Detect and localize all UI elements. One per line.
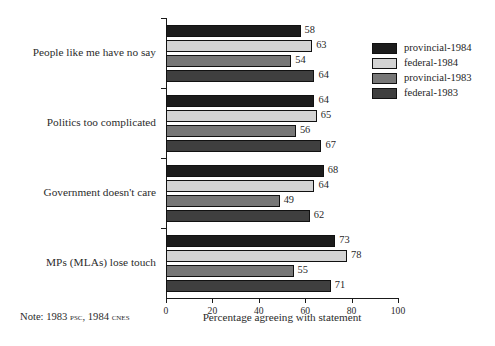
figure-note: Note: 1983 psc, 1984 cnes xyxy=(20,311,130,322)
bar[interactable] xyxy=(166,250,347,262)
bar[interactable] xyxy=(166,265,294,277)
bar-value-label: 56 xyxy=(296,124,310,135)
bar-group-1: 64655667 xyxy=(166,88,398,158)
bar-value-label: 62 xyxy=(310,209,324,220)
bar-value-label: 64 xyxy=(314,179,328,190)
bar-value-label: 64 xyxy=(314,69,328,80)
x-axis-tick xyxy=(305,298,306,303)
bar[interactable] xyxy=(166,140,321,152)
bar-value-label: 73 xyxy=(335,234,349,245)
legend-swatch-icon xyxy=(372,88,397,99)
bar-row: 68 xyxy=(166,165,398,177)
legend-label: provincial-1983 xyxy=(404,72,472,83)
x-axis-tick xyxy=(166,298,167,303)
chart-figure: People like me have no say Politics too … xyxy=(0,0,495,346)
legend-label: provincial-1984 xyxy=(404,42,472,53)
bar-value-label: 49 xyxy=(280,194,294,205)
bar-row: 71 xyxy=(166,280,398,292)
note-prefix: Note: 1983 xyxy=(20,311,70,322)
category-label-3-plain-a: s ( xyxy=(63,256,74,268)
note-cnes: cnes xyxy=(112,311,130,322)
bar-row: 78 xyxy=(166,250,398,262)
bar[interactable] xyxy=(166,195,280,207)
bar[interactable] xyxy=(166,55,291,67)
bar-row: 64 xyxy=(166,70,398,82)
bar[interactable] xyxy=(166,95,314,107)
bar[interactable] xyxy=(166,180,314,192)
bar-row: 49 xyxy=(166,195,398,207)
legend-item-0[interactable]: provincial-1984 xyxy=(372,42,492,57)
bar[interactable] xyxy=(166,280,331,292)
bar-group-0: 58635464 xyxy=(166,18,398,88)
bar-row: 64 xyxy=(166,95,398,107)
category-label-3-plain-b: s) lose touch xyxy=(99,256,156,268)
note-mid: , 1984 xyxy=(83,311,112,322)
legend-label: federal-1984 xyxy=(404,57,458,68)
bar-value-label: 65 xyxy=(317,109,331,120)
bar-row: 62 xyxy=(166,210,398,222)
bar-value-label: 58 xyxy=(301,24,315,35)
category-label-2: Government doesn't care xyxy=(0,186,156,199)
bar-value-label: 68 xyxy=(324,164,338,175)
category-label-0: People like me have no say xyxy=(0,46,156,59)
bar[interactable] xyxy=(166,165,324,177)
bar-group-2: 68644962 xyxy=(166,158,398,228)
bar-row: 67 xyxy=(166,140,398,152)
bar-row: 56 xyxy=(166,125,398,137)
legend-swatch-icon xyxy=(372,43,397,54)
bar-value-label: 71 xyxy=(331,279,345,290)
bar[interactable] xyxy=(166,40,312,52)
bar-value-label: 64 xyxy=(314,94,328,105)
bar-value-label: 78 xyxy=(347,249,361,260)
legend-swatch-icon xyxy=(372,58,397,69)
note-psc: psc xyxy=(70,311,82,322)
bar-row: 65 xyxy=(166,110,398,122)
chart-legend: provincial-1984federal-1984provincial-19… xyxy=(372,42,492,102)
bar[interactable] xyxy=(166,110,317,122)
bar-value-label: 54 xyxy=(291,54,305,65)
legend-item-2[interactable]: provincial-1983 xyxy=(372,72,492,87)
category-label-3-sc-a: MP xyxy=(46,256,63,268)
x-axis-tick xyxy=(212,298,213,303)
category-label-1: Politics too complicated xyxy=(0,116,156,129)
bar-row: 73 xyxy=(166,235,398,247)
bar[interactable] xyxy=(166,235,335,247)
legend-label: federal-1983 xyxy=(404,87,458,98)
bar-row: 55 xyxy=(166,265,398,277)
bar-value-label: 55 xyxy=(294,264,308,275)
bar[interactable] xyxy=(166,125,296,137)
bar-row: 54 xyxy=(166,55,398,67)
bar-row: 58 xyxy=(166,25,398,37)
x-axis-tick xyxy=(259,298,260,303)
legend-swatch-icon xyxy=(372,73,397,84)
category-label-3: MPs (MLAs) lose touch xyxy=(0,256,156,269)
bar-row: 63 xyxy=(166,40,398,52)
category-label-3-sc-b: MLA xyxy=(73,256,98,268)
x-axis-title: Percentage agreeing with statement xyxy=(166,311,398,323)
bar-value-label: 67 xyxy=(321,139,335,150)
plot-area: 020406080100 586354646465566768644962737… xyxy=(166,18,398,298)
legend-item-3[interactable]: federal-1983 xyxy=(372,87,492,102)
x-axis-tick xyxy=(398,298,399,303)
category-axis-labels: People like me have no say Politics too … xyxy=(0,18,160,298)
bar-row: 64 xyxy=(166,180,398,192)
bar[interactable] xyxy=(166,210,310,222)
bar-group-3: 73785571 xyxy=(166,228,398,298)
bar-value-label: 63 xyxy=(312,39,326,50)
bar[interactable] xyxy=(166,70,314,82)
x-axis-line xyxy=(166,298,398,299)
legend-item-1[interactable]: federal-1984 xyxy=(372,57,492,72)
x-axis-tick xyxy=(352,298,353,303)
bar[interactable] xyxy=(166,25,301,37)
